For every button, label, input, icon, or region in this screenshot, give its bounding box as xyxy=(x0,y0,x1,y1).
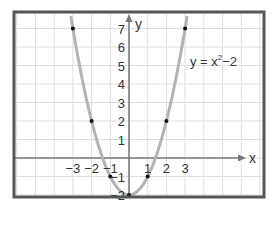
data-point xyxy=(183,27,187,31)
y-tick-label: −1 xyxy=(110,170,125,185)
y-tick-labels: 7654321−1−2 xyxy=(110,22,125,204)
equation-label: y = x2−2 xyxy=(190,53,237,69)
y-tick-label: 6 xyxy=(118,40,125,55)
y-tick-label: 4 xyxy=(118,77,125,92)
y-tick-label: 1 xyxy=(118,133,125,148)
x-tick-label: −2 xyxy=(84,161,99,176)
y-tick-label: 3 xyxy=(118,96,125,111)
x-tick-label: −3 xyxy=(65,161,80,176)
y-tick-label: 2 xyxy=(118,114,125,129)
x-axis-arrow-icon xyxy=(238,155,246,162)
x-tick-label: 3 xyxy=(181,161,188,176)
y-tick-label: 7 xyxy=(118,22,125,37)
equation-tail: −2 xyxy=(222,54,237,69)
x-tick-label: 2 xyxy=(163,161,170,176)
x-axis-label: x xyxy=(249,150,256,166)
parabola-chart: −3−2−1123 7654321−1−2 x y y = x2−2 xyxy=(0,0,278,228)
equation-base: y = x xyxy=(190,54,218,69)
data-point xyxy=(90,119,94,123)
axes xyxy=(14,14,246,197)
y-axis-arrow-icon xyxy=(126,14,133,22)
y-tick-label: 5 xyxy=(118,59,125,74)
x-tick-label: 1 xyxy=(144,161,151,176)
y-axis-label: y xyxy=(135,16,142,32)
grid-lines xyxy=(14,12,264,197)
chart-frame xyxy=(14,12,264,197)
data-point xyxy=(164,119,168,123)
data-point xyxy=(71,27,75,31)
x-tick-labels: −3−2−1123 xyxy=(65,161,188,176)
